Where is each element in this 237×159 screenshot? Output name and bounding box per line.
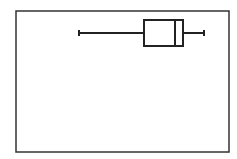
boxplot-chart — [0, 0, 237, 159]
interquartile-box — [144, 20, 183, 46]
